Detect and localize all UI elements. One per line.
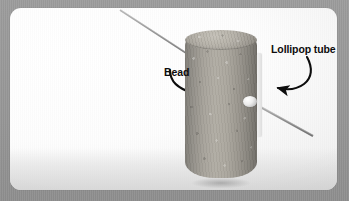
photo-vignette (10, 8, 337, 190)
photo-card: Bead Lollipop tube (10, 8, 337, 190)
figure-root: Bead Lollipop tube (0, 0, 349, 201)
